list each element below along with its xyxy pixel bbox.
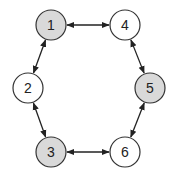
node-label: 3 [47, 144, 55, 160]
node-label: 2 [24, 80, 32, 96]
node-6: 6 [110, 137, 140, 167]
node-5: 5 [135, 73, 165, 103]
edge-5-4 [131, 40, 144, 73]
edge-1-2 [33, 40, 45, 73]
cycle-graph-diagram: 142536 [0, 0, 176, 178]
node-4: 4 [110, 10, 140, 40]
node-2: 2 [13, 73, 43, 103]
edge-6-5 [131, 103, 144, 137]
edge-2-3 [33, 103, 45, 137]
node-label: 6 [121, 144, 129, 160]
nodes-group: 142536 [13, 10, 165, 167]
node-label: 4 [121, 17, 129, 33]
node-1: 1 [36, 10, 66, 40]
node-label: 5 [146, 80, 154, 96]
node-3: 3 [36, 137, 66, 167]
node-label: 1 [47, 17, 55, 33]
edges-group [33, 25, 144, 152]
